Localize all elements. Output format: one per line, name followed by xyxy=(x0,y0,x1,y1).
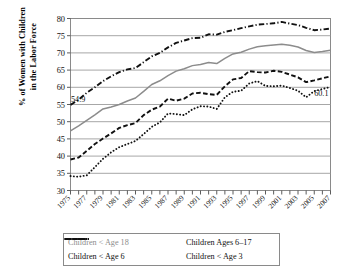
x-axis-tick-label: 1985 xyxy=(136,193,153,210)
legend-item-children-under-3: Children < Age 3 xyxy=(186,252,243,262)
x-axis-tick-label: 1975 xyxy=(55,193,72,210)
x-axis-tick-label: 1991 xyxy=(185,193,202,210)
legend-item-children-under-6: Children < Age 6 xyxy=(68,252,186,262)
x-axis-tick-label: 2001 xyxy=(266,193,283,210)
y-axis-tick-label: 60 xyxy=(57,83,65,92)
x-axis-tick-label: 1995 xyxy=(218,193,235,210)
y-axis-tick-label: 55 xyxy=(57,101,65,110)
legend-label-3: Children < Age 3 xyxy=(186,252,243,262)
chart-legend: Children < Age 18 Children Ages 6–17 Chi… xyxy=(63,233,280,266)
labor-force-line-chart: % of Women with Children in the Labor Fo… xyxy=(0,0,342,275)
x-axis-tick-label: 2007 xyxy=(315,193,332,210)
legend-item-children-6-17: Children Ages 6–17 xyxy=(186,238,252,248)
legend-swatch-dotted-icon xyxy=(64,234,90,244)
x-axis-tick-label: 2003 xyxy=(283,193,300,210)
legend-row-1: Children < Age 18 Children Ages 6–17 xyxy=(68,236,275,250)
legend-label-2: Children < Age 6 xyxy=(68,252,125,262)
x-axis-tick-label: 1989 xyxy=(169,193,186,210)
legend-row-2: Children < Age 6 Children < Age 3 xyxy=(68,250,275,264)
y-axis-tick-label: 40 xyxy=(57,152,65,161)
y-axis-tick-label: 65 xyxy=(57,66,65,75)
y-axis-tick-label: 70 xyxy=(57,49,65,58)
y-axis-tick-label: 50 xyxy=(57,118,65,127)
x-axis-tick-label: 1979 xyxy=(88,193,105,210)
y-axis-tick-label: 35 xyxy=(57,169,65,178)
x-axis-tick-label: 1997 xyxy=(234,193,251,210)
x-axis-tick-label: 1993 xyxy=(201,193,218,210)
y-axis-tick-label: 75 xyxy=(57,32,65,41)
x-axis-tick-label: 1977 xyxy=(71,193,88,210)
y-axis-tick-label: 80 xyxy=(57,15,65,24)
annotation-54-9: 54.9 xyxy=(71,95,85,104)
x-axis-tick-label: 1987 xyxy=(153,193,170,210)
x-axis-tick-label: 1981 xyxy=(104,193,121,210)
y-axis-tick-label: 45 xyxy=(57,135,65,144)
x-axis-tick-label: 2005 xyxy=(299,193,316,210)
legend-label-1: Children Ages 6–17 xyxy=(186,238,252,248)
annotation-60-1: 60.1 xyxy=(314,89,328,98)
x-axis-tick-label: 1999 xyxy=(250,193,267,210)
x-axis-tick-label: 1983 xyxy=(120,193,137,210)
